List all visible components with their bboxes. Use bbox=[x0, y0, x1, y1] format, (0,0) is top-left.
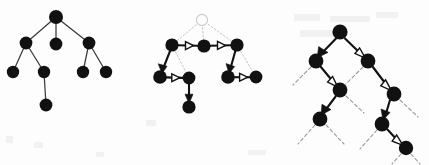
node-root bbox=[49, 10, 63, 24]
node-root bbox=[332, 24, 347, 39]
node-left-right bbox=[333, 83, 348, 98]
node-deep-leaf bbox=[399, 141, 413, 155]
node-left-right bbox=[38, 66, 50, 78]
node-left-left bbox=[7, 66, 19, 78]
node-left-left bbox=[153, 70, 167, 84]
node-left-child bbox=[20, 37, 33, 50]
node-middle-child bbox=[197, 39, 210, 52]
node-right-child bbox=[361, 54, 376, 69]
node-right-child bbox=[230, 38, 243, 51]
node-leaf-bottom bbox=[40, 99, 53, 112]
figure-background bbox=[0, 0, 429, 165]
node-left-right bbox=[183, 72, 196, 85]
node-right-right bbox=[387, 87, 402, 102]
node-right-right bbox=[250, 71, 263, 84]
node-right-left bbox=[77, 66, 89, 78]
tree-traversal-figure bbox=[0, 0, 429, 165]
node-middle-child bbox=[50, 38, 63, 51]
figure-canvas bbox=[0, 0, 429, 165]
node-right-child bbox=[83, 37, 96, 50]
node-right-right bbox=[100, 66, 112, 78]
node-left-right-left bbox=[313, 112, 328, 127]
node-right-right-left bbox=[375, 117, 390, 132]
node-root-hollow bbox=[196, 14, 207, 25]
node-left-child bbox=[309, 54, 324, 69]
node-right-left bbox=[221, 70, 235, 84]
node-left-child bbox=[165, 38, 178, 51]
node-leaf-bottom bbox=[182, 100, 195, 113]
